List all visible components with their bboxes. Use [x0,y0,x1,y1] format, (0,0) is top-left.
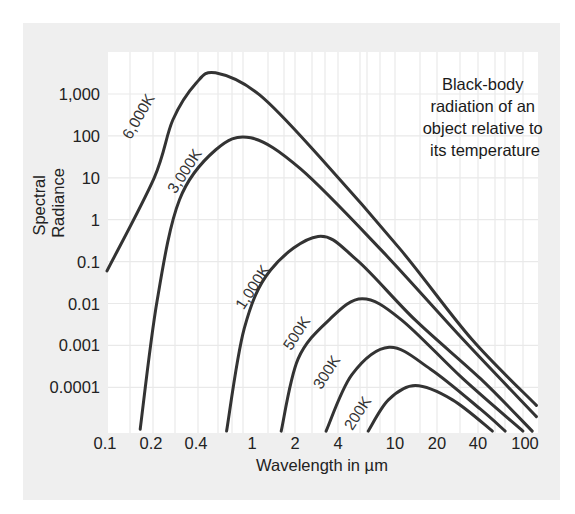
x-tick-label: 0.1 [94,434,117,452]
x-tick-label: 0.2 [140,434,163,452]
x-tick-label: 40 [469,434,487,452]
y-tick-label: 1,000 [59,85,100,103]
y-tick-label: 0.0001 [50,378,100,396]
annotation-line-2: radiation of an [430,97,535,115]
x-tick-label: 20 [428,434,446,452]
y-axis-title: Spectral Radiance [30,168,67,238]
y-tick-label: 1 [91,211,100,229]
annotation-line-3: object relative to [423,119,543,137]
y-tick-label: 0.01 [68,295,100,313]
x-tick-label: 1 [247,434,256,452]
blackbody-chart: 6,000K3,000K1,000K500K300K200K 1,0001001… [0,0,575,514]
x-tick-label: 0.4 [185,434,208,452]
annotation-line-1: Black-body [442,75,524,93]
y-tick-label: 0.1 [77,253,100,271]
y-axis-title-line-2: Radiance [49,168,67,238]
y-tick-label: 0.001 [59,336,100,354]
annotation-line-4: its temperature [430,141,540,159]
x-tick-label: 10 [386,434,404,452]
x-axis-title: Wavelength in µm [256,456,388,474]
y-tick-label: 10 [82,169,100,187]
x-tick-label: 2 [290,434,299,452]
y-tick-label: 100 [72,127,100,145]
x-tick-label: 100 [511,434,539,452]
x-tick-label: 4 [333,434,342,452]
y-axis-title-line-1: Spectral [30,175,48,236]
